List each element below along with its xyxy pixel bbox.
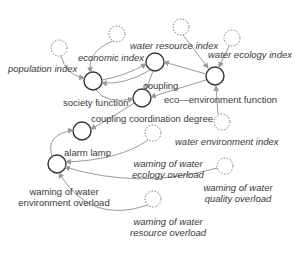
coupling-label: coupling (143, 80, 178, 91)
warning-quality-cloud (217, 158, 233, 174)
warning-resource-cloud (145, 191, 161, 207)
warning-ecology-line2: ecology overload (118, 169, 218, 180)
water-environment-index-label: water environment index (175, 136, 279, 147)
warning-quality-line1: waming of water (188, 182, 288, 193)
warning-water-env-line2: environment overload (14, 197, 114, 208)
warning-water-env-label: waming of water environment overload (14, 186, 114, 208)
population-index-cloud (51, 40, 67, 56)
economic-index-label: economic index (78, 52, 144, 63)
coupling-node (146, 53, 164, 71)
economic-index-cloud (109, 26, 125, 42)
arrow-eco-to-coupling (164, 62, 206, 74)
water-resource-index-cloud (173, 19, 189, 35)
water-environment-index-cloud (214, 114, 230, 130)
alarm-lamp-label: alarm lamp (64, 147, 111, 158)
arrow-society-to-coupling (102, 64, 146, 80)
eco-environment-function-label: eco—environment function (164, 94, 277, 105)
eco-environment-function-node (206, 67, 224, 85)
warning-water-env-line1: waming of water (14, 186, 114, 197)
water-resource-index-label: water resource index (130, 40, 218, 51)
warning-ecology-line1: waming of water (118, 158, 218, 169)
society-function-label: society function (63, 97, 128, 108)
coupling-coordination-degree-label: coupling coordination degree (91, 113, 213, 124)
warning-ecology-cloud (145, 125, 161, 141)
coupling-coordination-degree-node (133, 89, 151, 107)
warning-resource-line1: waming of water (118, 216, 218, 227)
water-ecology-index-label: water ecology index (208, 49, 292, 60)
alarm-lamp-node (73, 122, 91, 140)
warning-quality-line2: quality overload (188, 193, 288, 204)
warning-resource-label: waming of water resource overload (118, 216, 218, 238)
warning-ecology-label: waming of water ecology overload (118, 158, 218, 180)
warning-resource-line2: resource overload (118, 227, 218, 238)
society-function-node (84, 72, 102, 90)
population-index-label: population index (8, 63, 77, 74)
water-ecology-index-cloud (224, 30, 240, 46)
warning-quality-label: waming of water quality overload (188, 182, 288, 204)
